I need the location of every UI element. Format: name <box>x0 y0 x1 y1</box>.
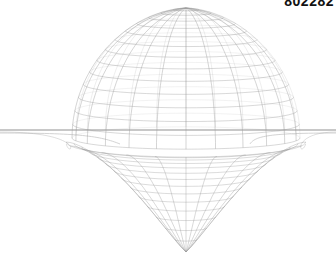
wireframe-illustration: 802282 <box>0 0 336 260</box>
wireframe-graphic <box>0 0 336 260</box>
